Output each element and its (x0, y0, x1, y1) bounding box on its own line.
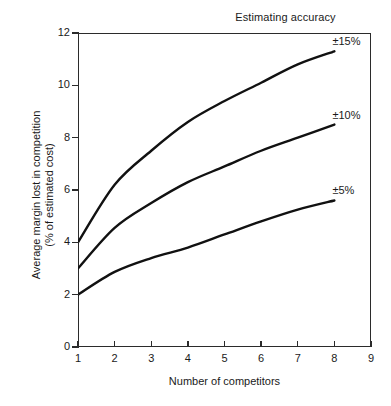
y-axis-tick-mark (72, 242, 79, 243)
plot-series-canvas (78, 33, 371, 347)
x-axis-tick-label: 8 (324, 353, 344, 364)
x-axis-tick-label: 4 (178, 353, 198, 364)
y-axis-title: Average margin lost in competition (% of… (30, 38, 56, 352)
series-line (78, 51, 334, 242)
y-axis-tick-mark (72, 32, 79, 33)
x-axis-tick-label: 3 (141, 353, 161, 364)
x-axis-tick-mark (77, 341, 78, 347)
x-axis-tick-mark (151, 341, 152, 347)
y-axis-tick-mark (72, 85, 79, 86)
x-axis-tick-label: 5 (215, 353, 235, 364)
series-line (78, 125, 334, 269)
chart-title: Estimating accuracy (200, 11, 371, 24)
x-axis-tick-label: 7 (288, 353, 308, 364)
series-line (78, 200, 334, 294)
chart-figure: Estimating accuracy 024681012 123456789 … (0, 0, 391, 406)
x-axis-title: Number of competitors (78, 375, 371, 388)
y-axis-title-line1: Average margin lost in competition (30, 111, 42, 280)
y-axis-tick-label: 12 (44, 27, 70, 38)
series-end-label: ±5% (332, 185, 354, 196)
x-axis-tick-label: 9 (361, 353, 381, 364)
x-axis-tick-label: 2 (105, 353, 125, 364)
y-axis-tick-mark (72, 137, 79, 138)
x-axis-tick-mark (297, 341, 298, 347)
x-axis-tick-mark (114, 341, 115, 347)
y-axis-title-line2: (% of estimated cost) (43, 38, 56, 352)
x-axis-tick-mark (260, 341, 261, 347)
x-axis-tick-label: 6 (251, 353, 271, 364)
series-end-label: ±15% (332, 36, 360, 47)
y-axis-tick-mark (72, 294, 79, 295)
y-axis-tick-mark (72, 189, 79, 190)
x-axis-title-text: Number of competitors (169, 375, 280, 387)
x-axis-tick-mark (370, 341, 371, 347)
x-axis-tick-label: 1 (68, 353, 88, 364)
x-axis-tick-mark (334, 341, 335, 347)
series-end-label: ±10% (332, 110, 360, 121)
x-axis-tick-mark (187, 341, 188, 347)
x-axis-tick-mark (224, 341, 225, 347)
